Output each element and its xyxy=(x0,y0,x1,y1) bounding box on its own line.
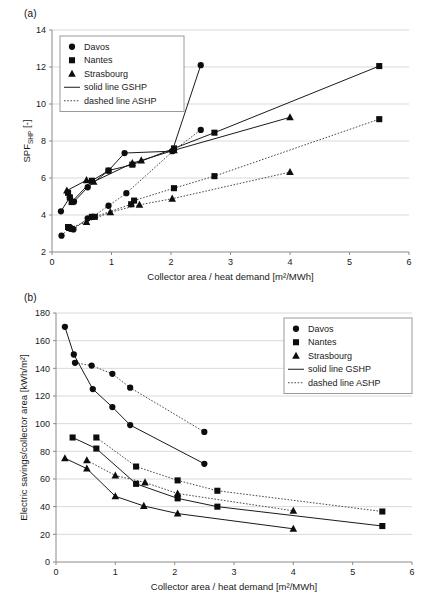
data-point-marker xyxy=(171,185,177,191)
data-point-marker xyxy=(198,127,204,133)
legend-item-label: Nantes xyxy=(308,337,337,347)
data-point-marker xyxy=(214,488,220,494)
data-point-marker xyxy=(92,214,98,220)
y-tick-label: 120 xyxy=(35,391,50,401)
x-tick-label: 1 xyxy=(109,257,114,267)
figure-container: (a) 24681012140123456Collector area / he… xyxy=(0,0,429,611)
panel-a-svg: 24681012140123456Collector area / heat d… xyxy=(0,0,429,300)
y-tick-label: 8 xyxy=(41,136,46,146)
series-line-davos-ashp xyxy=(75,363,204,432)
x-tick-label: 4 xyxy=(287,257,292,267)
series-markers-nantes-gshp xyxy=(70,434,386,529)
x-tick-label: 6 xyxy=(409,567,414,577)
y-tick-label: 12 xyxy=(36,62,46,72)
data-point-marker xyxy=(133,464,139,470)
legend-square-marker xyxy=(293,339,299,345)
data-point-marker xyxy=(376,116,382,122)
data-point-marker xyxy=(131,198,137,204)
legend: DavosNantesStrasbourgsolid line GSHPdash… xyxy=(284,318,412,394)
y-tick-label: 160 xyxy=(35,336,50,346)
data-point-marker xyxy=(83,465,91,472)
x-tick-label: 3 xyxy=(231,567,236,577)
data-point-marker xyxy=(121,150,127,156)
y-tick-label: 14 xyxy=(36,25,46,35)
x-tick-label: 2 xyxy=(168,257,173,267)
data-point-marker xyxy=(105,168,111,174)
data-point-marker xyxy=(69,199,75,205)
data-point-marker xyxy=(62,324,68,330)
series-line-nantes-ashp xyxy=(96,438,382,512)
x-tick-label: 0 xyxy=(53,567,58,577)
x-tick-label: 5 xyxy=(347,257,352,267)
panel-a: (a) 24681012140123456Collector area / he… xyxy=(0,0,429,300)
y-tick-label: 140 xyxy=(35,364,50,374)
data-point-marker xyxy=(58,233,64,239)
y-tick-label: 80 xyxy=(40,447,50,457)
y-tick-label: 0 xyxy=(45,557,50,567)
y-axis-title: SPFSHP [-] xyxy=(21,120,34,163)
legend-item-label: dashed line ASHP xyxy=(84,96,157,106)
x-tick-label: 5 xyxy=(350,567,355,577)
data-point-marker xyxy=(58,208,64,214)
data-point-marker xyxy=(88,362,94,368)
panel-b-svg: 0204060801001201401601800123456Collector… xyxy=(0,290,429,611)
data-point-marker xyxy=(201,461,207,467)
svg-text:SPFSHP [-]: SPFSHP [-] xyxy=(21,120,34,163)
legend-item-label: solid line GSHP xyxy=(84,82,147,92)
x-tick-label: 3 xyxy=(228,257,233,267)
data-point-marker xyxy=(198,62,204,68)
data-point-marker xyxy=(83,456,91,463)
y-tick-label: 180 xyxy=(35,308,50,318)
data-point-marker xyxy=(93,434,99,440)
series-line-strasbourg-ashp xyxy=(70,172,290,228)
series-line-nantes-gshp xyxy=(73,438,383,527)
series-line-nantes-ashp xyxy=(68,119,379,229)
x-tick-label: 4 xyxy=(291,567,296,577)
y-axis-title: Electric savings/collector area [kWh/m²] xyxy=(18,354,29,520)
data-point-marker xyxy=(70,434,76,440)
legend-item-label: Strasbourg xyxy=(84,69,128,79)
x-tick-label: 1 xyxy=(113,567,118,577)
y-tick-label: 60 xyxy=(40,474,50,484)
svg-text:Electric savings/collector are: Electric savings/collector area [kWh/m²] xyxy=(18,354,29,520)
legend-item-label: Davos xyxy=(308,324,334,334)
data-point-marker xyxy=(133,481,139,487)
series-markers-davos-gshp xyxy=(62,324,208,467)
legend-circle-marker xyxy=(293,326,299,332)
data-point-marker xyxy=(109,371,115,377)
x-axis-title: Collector area / heat demand [m²/MWh] xyxy=(147,271,313,282)
series-markers-nantes-ashp xyxy=(93,434,385,514)
x-tick-label: 2 xyxy=(172,567,177,577)
data-point-marker xyxy=(127,385,133,391)
data-point-marker xyxy=(71,351,77,357)
data-point-marker xyxy=(112,471,120,478)
data-point-marker xyxy=(93,446,99,452)
data-point-marker xyxy=(85,184,91,190)
legend-square-marker xyxy=(69,57,75,63)
legend-item-label: Strasbourg xyxy=(308,351,352,361)
panel-a-plot: 24681012140123456Collector area / heat d… xyxy=(0,0,429,300)
data-point-marker xyxy=(109,404,115,410)
y-tick-label: 4 xyxy=(41,210,46,220)
y-tick-label: 2 xyxy=(41,247,46,257)
data-point-marker xyxy=(201,429,207,435)
panel-b-plot: 0204060801001201401601800123456Collector… xyxy=(0,290,429,611)
legend-item-label: Davos xyxy=(84,42,110,52)
data-point-marker xyxy=(211,130,217,136)
legend-item-label: dashed line ASHP xyxy=(308,378,381,388)
data-point-marker xyxy=(90,386,96,392)
y-tick-label: 20 xyxy=(40,530,50,540)
data-point-marker xyxy=(174,489,182,496)
data-point-marker xyxy=(171,147,177,153)
x-tick-label: 0 xyxy=(49,257,54,267)
y-tick-label: 40 xyxy=(40,502,50,512)
data-point-marker xyxy=(175,477,181,483)
data-point-marker xyxy=(127,422,133,428)
series-markers-strasbourg-gshp xyxy=(63,113,294,193)
data-point-marker xyxy=(61,454,69,461)
data-point-marker xyxy=(379,508,385,514)
y-tick-label: 10 xyxy=(36,99,46,109)
data-point-marker xyxy=(105,203,111,209)
x-axis-title: Collector area / heat demand [m²/MWh] xyxy=(151,581,317,592)
legend-item-label: solid line GSHP xyxy=(308,364,371,374)
